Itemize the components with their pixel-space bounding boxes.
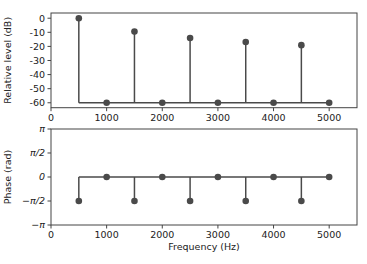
phase-axes: 010002000300040005000ππ/20−π/2−πPhase (r… — [2, 123, 357, 252]
phase-marker — [76, 198, 83, 205]
magnitude-marker — [76, 15, 83, 22]
phase-ylabel: Phase (rad) — [2, 150, 13, 205]
phase-marker — [187, 198, 194, 205]
y-tick-label: −π — [31, 219, 45, 230]
phase-marker — [270, 174, 277, 181]
phase-marker — [242, 198, 249, 205]
magnitude-marker — [298, 42, 305, 49]
x-tick-label: 2000 — [150, 112, 174, 123]
y-tick-label: -60 — [29, 97, 45, 108]
phase-xlabel: Frequency (Hz) — [168, 241, 240, 252]
magnitude-marker — [159, 99, 166, 106]
x-tick-label: 3000 — [206, 229, 230, 240]
x-tick-label: 1000 — [95, 112, 119, 123]
phase-marker — [215, 174, 222, 181]
magnitude-marker — [131, 28, 138, 35]
magnitude-marker — [187, 35, 194, 42]
y-tick-label: -50 — [29, 83, 45, 94]
magnitude-marker — [215, 99, 222, 106]
phase-marker — [131, 198, 138, 205]
phase-marker — [298, 198, 305, 205]
figure: 0100020003000400050000-10-20-30-40-50-60… — [0, 0, 367, 264]
phase-marker — [326, 174, 333, 181]
x-tick-label: 2000 — [150, 229, 174, 240]
y-tick-label: -10 — [29, 27, 45, 38]
x-tick-label: 0 — [48, 229, 54, 240]
magnitude-marker — [242, 39, 249, 46]
x-tick-label: 3000 — [206, 112, 230, 123]
magnitude-marker — [103, 99, 110, 106]
y-tick-label: −π/2 — [22, 195, 45, 206]
magnitude-axes: 0100020003000400050000-10-20-30-40-50-60… — [2, 13, 357, 123]
x-tick-label: 5000 — [317, 112, 341, 123]
y-tick-label: π/2 — [30, 147, 45, 158]
x-tick-label: 0 — [48, 112, 54, 123]
x-tick-label: 1000 — [95, 229, 119, 240]
x-tick-label: 5000 — [317, 229, 341, 240]
magnitude-ylabel: Relative level (dB) — [2, 17, 13, 104]
phase-marker — [159, 174, 166, 181]
y-tick-label: -20 — [29, 41, 45, 52]
y-tick-label: -40 — [29, 69, 45, 80]
y-tick-label: -30 — [29, 55, 45, 66]
y-tick-label: 0 — [39, 171, 45, 182]
y-tick-label: 0 — [39, 13, 45, 24]
y-tick-label: π — [39, 123, 45, 134]
magnitude-marker — [270, 99, 277, 106]
magnitude-marker — [326, 99, 333, 106]
magnitude-frame — [51, 13, 357, 108]
phase-marker — [103, 174, 110, 181]
x-tick-label: 4000 — [261, 229, 285, 240]
x-tick-label: 4000 — [261, 112, 285, 123]
